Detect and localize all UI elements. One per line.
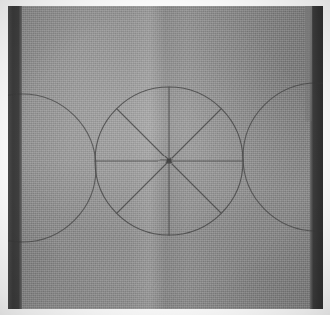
photo-canvas [0, 0, 330, 315]
fabric-panel [8, 6, 323, 309]
right-shadow-band [310, 6, 323, 309]
fabric-grain-texture [8, 6, 323, 309]
left-shadow-band [8, 6, 22, 309]
